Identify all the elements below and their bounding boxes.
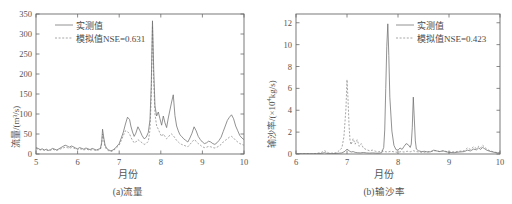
y-tick-label-b: 6	[288, 83, 292, 93]
y-tick-label-a: 250	[19, 49, 32, 59]
y-tick-label-a: 200	[19, 69, 32, 79]
series-simulated-b	[296, 80, 500, 154]
legend-label-simulated-b: 模拟值NSE=0.423	[417, 33, 487, 44]
panel-caption-b: (b)输沙率	[256, 184, 512, 198]
legend-label-observed-b: 实测值	[417, 20, 444, 31]
y-tick-label-b: 12	[284, 18, 293, 28]
panel-flow: 流量/(m³/s) 0501001502002503003505678910实测…	[0, 0, 256, 204]
y-tick-label-b: 10	[284, 40, 293, 50]
y-tick-label-a: 150	[19, 89, 32, 99]
panel-caption-a: (a)流量	[0, 184, 256, 198]
x-axis-label-b: 月份	[256, 166, 512, 181]
legend-label-observed-a: 实测值	[76, 20, 103, 31]
y-tick-label-a: 300	[19, 29, 32, 39]
y-tick-label-a: 350	[19, 9, 32, 19]
figure-container: 流量/(m³/s) 0501001502002503003505678910实测…	[0, 0, 512, 204]
y-tick-label-b: 0	[288, 149, 292, 159]
legend-label-simulated-a: 模拟值NSE=0.631	[76, 33, 145, 44]
y-tick-label-b: 8	[288, 62, 292, 72]
y-tick-label-a: 0	[28, 149, 32, 159]
y-tick-label-b: 2	[288, 127, 292, 137]
y-tick-label-a: 100	[19, 109, 32, 119]
x-axis-label-a: 月份	[0, 166, 256, 181]
panel-sediment: 输沙率/(×104kg/s) 024681012678910实测值模拟值NSE=…	[256, 0, 512, 204]
y-tick-label-a: 50	[24, 129, 33, 139]
series-simulated-a	[36, 26, 244, 152]
y-tick-label-b: 4	[288, 105, 293, 115]
